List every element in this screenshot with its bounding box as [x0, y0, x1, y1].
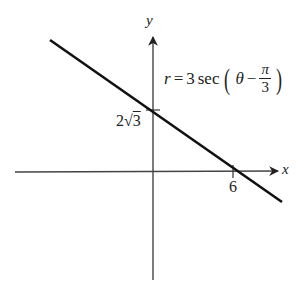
sqrt-symbol: √	[124, 112, 133, 129]
eq-coeff: 3	[186, 69, 195, 89]
x-axis-label: x	[282, 161, 289, 178]
y-axis-label: y	[146, 12, 153, 29]
equation-label: r = 3 sec ( θ − π 3 )	[164, 62, 284, 95]
eq-fraction: π 3	[259, 62, 271, 95]
eq-minus: −	[247, 69, 257, 89]
left-paren: (	[224, 64, 230, 94]
y-intercept-label: 2√3	[116, 112, 141, 130]
eq-func: sec	[198, 69, 220, 89]
eq-equals: =	[174, 69, 184, 89]
y-intercept-coeff: 2	[116, 112, 124, 129]
right-paren: )	[276, 64, 282, 94]
polar-graph-figure: y x 2√3 6 r = 3 sec ( θ − π 3 )	[0, 0, 296, 284]
frac-denominator: 3	[261, 79, 269, 95]
y-intercept-radicand: 3	[133, 112, 141, 129]
x-intercept-label: 6	[229, 178, 237, 196]
eq-var: θ	[235, 69, 243, 89]
frac-numerator: π	[259, 62, 271, 79]
eq-lhs: r	[164, 69, 171, 89]
graph-canvas	[0, 0, 296, 284]
